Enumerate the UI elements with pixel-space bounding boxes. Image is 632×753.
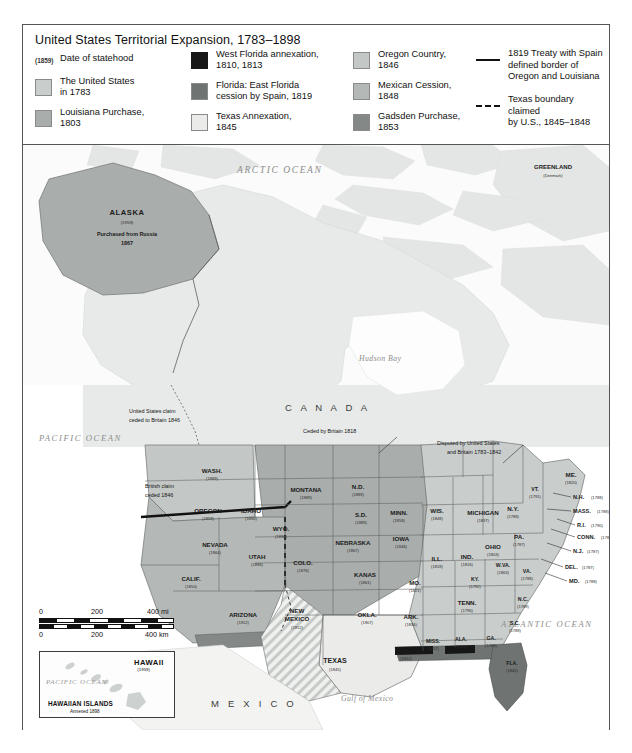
svg-text:ILL.: ILL.: [432, 555, 443, 562]
svg-text:MISS.: MISS.: [426, 638, 441, 644]
svg-text:(1791): (1791): [529, 494, 541, 499]
svg-text:(1912): (1912): [291, 625, 303, 630]
svg-text:N.J.: N.J.: [573, 548, 584, 554]
hawaii-label: HAWAII: [134, 658, 164, 667]
svg-text:MINN.: MINN.: [390, 509, 408, 516]
svg-text:(1861): (1861): [359, 580, 371, 585]
hawaii-ocean-label: PACIFIC OCEAN: [46, 678, 107, 687]
legend-entry-west-florida: West Florida annexation, 1810, 1813: [191, 51, 341, 77]
legend-entry-texas-claim-line: Texas boundary claimed by U.S., 1845–184…: [478, 97, 608, 127]
svg-text:ARIZONA: ARIZONA: [229, 611, 258, 618]
svg-text:(1848): (1848): [431, 516, 443, 521]
svg-text:OKLA.: OKLA.: [357, 611, 377, 618]
alaska-note-1: Purchased from Russia: [97, 231, 158, 237]
svg-text:S.D.: S.D.: [355, 511, 367, 518]
svg-text:(1789): (1789): [517, 604, 529, 609]
svg-text:NEVADA: NEVADA: [202, 541, 228, 548]
annotation-british-claim-1: British claim: [145, 483, 175, 489]
legend-swatch: [353, 83, 370, 100]
svg-text:DEL.: DEL.: [565, 564, 578, 570]
scale-miles-start: 0: [39, 607, 43, 616]
svg-text:(1787): (1787): [582, 565, 594, 570]
svg-text:ME.: ME.: [565, 471, 576, 478]
svg-text:(1837): (1837): [477, 518, 489, 523]
legend-entry-louisiana-purchase: Louisiana Purchase, 1803: [35, 109, 185, 135]
legend-label: Gadsden Purchase, 1853: [378, 111, 460, 134]
svg-text:CALIF.: CALIF.: [181, 575, 201, 582]
legend-label: 1819 Treaty with Spain defined border of…: [508, 48, 603, 83]
svg-text:(1912): (1912): [237, 620, 249, 625]
svg-text:LA.: LA.: [402, 648, 411, 654]
svg-text:(1896): (1896): [251, 562, 263, 567]
hawaii-date: (1959): [137, 667, 150, 672]
legend-column-2: West Florida annexation, 1810, 1813 Flor…: [191, 51, 341, 144]
svg-text:MASS.: MASS.: [573, 508, 591, 514]
svg-text:(1803): (1803): [487, 552, 499, 557]
svg-text:(1796): (1796): [461, 608, 473, 613]
svg-text:W.VA.: W.VA.: [496, 562, 511, 568]
svg-text:(1859): (1859): [202, 516, 214, 521]
legend-label: Texas boundary claimed by U.S., 1845–184…: [508, 94, 608, 129]
legend-swatch: [191, 83, 208, 100]
svg-text:WYO.: WYO.: [273, 525, 290, 532]
svg-text:ALA.: ALA.: [455, 636, 468, 642]
svg-text:(1787): (1787): [587, 549, 599, 554]
scale-km-numbers: 0 200 400 km: [39, 630, 189, 640]
svg-text:MEXICO: MEXICO: [285, 615, 310, 622]
svg-text:KY.: KY.: [471, 576, 480, 582]
svg-text:(1889): (1889): [352, 492, 364, 497]
svg-text:(1850): (1850): [185, 584, 197, 589]
svg-text:N.D.: N.D.: [352, 483, 365, 490]
hawaiian-islands-label: HAWAIIAN ISLANDS: [48, 700, 113, 707]
map-legend: United States Territorial Expansion, 178…: [23, 25, 609, 145]
scale-km-mid: 200: [91, 630, 103, 639]
legend-swatch: [353, 114, 370, 131]
svg-text:(1889): (1889): [355, 520, 367, 525]
map-canvas[interactable]: ARCTIC OCEAN PACIFIC OCEAN ATLANTIC OCEA…: [23, 145, 609, 730]
svg-text:(1821): (1821): [409, 588, 421, 593]
ocean-label-arctic: ARCTIC OCEAN: [236, 165, 322, 175]
legend-swatch: [35, 110, 52, 127]
svg-text:R.I.: R.I.: [577, 522, 586, 528]
svg-text:UTAH: UTAH: [249, 553, 266, 560]
svg-text:KANAS: KANAS: [354, 571, 376, 578]
scale-km-start: 0: [39, 630, 43, 639]
legend-entry-us-1783: The United States in 1783: [35, 78, 185, 104]
scale-bar-miles: [39, 618, 174, 623]
svg-text:(1788): (1788): [521, 576, 533, 581]
svg-text:PA.: PA.: [514, 533, 524, 540]
annotation-us-claim-ceded-2: ceded to Britain 1846: [129, 417, 180, 423]
svg-text:NEW: NEW: [290, 607, 305, 614]
svg-text:COLO.: COLO.: [293, 559, 313, 566]
svg-text:(1907): (1907): [361, 620, 373, 625]
legend-label: West Florida annexation, 1810, 1813: [216, 49, 319, 72]
svg-text:(1788): (1788): [601, 535, 609, 540]
hawaii-inset[interactable]: HAWAII (1959) PACIFIC OCEAN HAWAIIAN ISL…: [39, 651, 175, 718]
svg-text:(1890): (1890): [245, 516, 257, 521]
alaska-note-2: 1867: [121, 240, 133, 246]
statehood-date-sample: (1859): [35, 57, 53, 64]
legend-entry-mexican-cession: Mexican Cession, 1848: [353, 82, 483, 108]
svg-text:(1788): (1788): [591, 495, 603, 500]
svg-text:(1858): (1858): [393, 518, 405, 523]
svg-text:TEXAS: TEXAS: [323, 657, 347, 664]
legend-entry-date-of-statehood: (1859) Date of statehood: [35, 55, 185, 73]
ocean-label-hudson-bay: Hudson Bay: [358, 354, 401, 363]
legend-label: Texas Annexation, 1845: [216, 111, 291, 134]
svg-text:MD.: MD.: [569, 578, 580, 584]
svg-text:TENN.: TENN.: [458, 599, 477, 606]
solid-line-icon: [476, 59, 500, 61]
legend-label: Louisiana Purchase, 1803: [60, 107, 144, 130]
svg-text:GA.: GA.: [486, 635, 496, 641]
svg-text:(1788): (1788): [485, 643, 497, 648]
svg-text:(1819): (1819): [455, 644, 467, 649]
ocean-label-gulf-of-mexico: Gulf of Mexico: [341, 694, 393, 703]
svg-text:(1812): (1812): [400, 656, 412, 661]
legend-column-1: (1859) Date of statehood The United Stat…: [35, 55, 185, 140]
svg-text:(1864): (1864): [209, 550, 221, 555]
legend-label: The United States in 1783: [60, 76, 134, 99]
annotation-ceded-by-britain-1818: Ceded by Britain 1818: [303, 428, 356, 434]
scale-km-end: 400 km: [145, 630, 169, 639]
annotation-disputed-2: and Britain 1783–1842: [447, 449, 501, 455]
legend-column-3: Oregon Country, 1846 Mexican Cession, 18…: [353, 51, 483, 144]
